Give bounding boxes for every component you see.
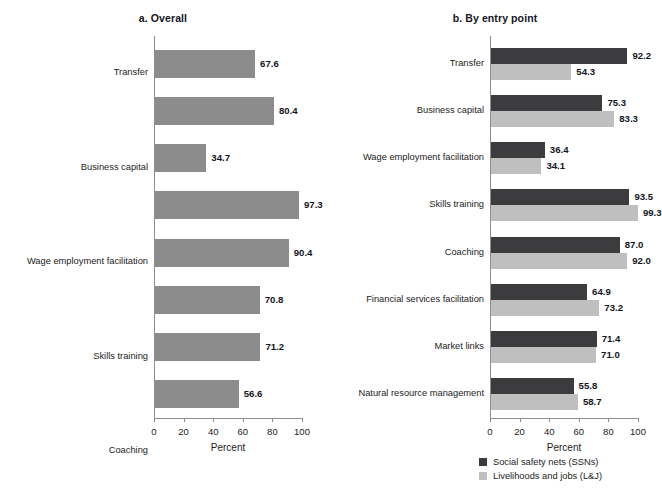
- bar: 34.1: [491, 158, 541, 174]
- x-tick-label: 100: [630, 426, 646, 437]
- x-tick-label: 0: [151, 426, 156, 437]
- category-label: Coaching: [109, 445, 148, 455]
- value-label: 87.0: [625, 239, 644, 250]
- bar: Transfer67.6: [155, 50, 255, 78]
- legend-label: Livelihoods and jobs (L&J): [493, 471, 602, 481]
- bar: 71.4: [491, 331, 597, 347]
- panel-a-title: a. Overall: [23, 12, 303, 24]
- x-axis-title-b: Percent: [490, 442, 638, 453]
- panel-by-entry-point: b. By entry point 020406080100 92.254.3T…: [331, 0, 662, 497]
- x-tick: [638, 418, 639, 422]
- x-tick-label: 40: [544, 426, 555, 437]
- value-label: 90.4: [294, 247, 313, 258]
- bar: 54.3: [491, 64, 571, 80]
- value-label: 92.0: [632, 255, 651, 266]
- bar: 73.2: [491, 300, 599, 316]
- bar: 83.3: [491, 111, 614, 127]
- category-label: Financial services facilitation: [366, 294, 491, 304]
- value-label: 36.4: [550, 144, 569, 155]
- panel-overall: a. Overall 020406080100 Transfer67.6Busi…: [0, 0, 331, 497]
- value-label: 55.8: [579, 380, 598, 391]
- bar: Market links71.2: [155, 333, 260, 361]
- x-tick-label: 20: [514, 426, 525, 437]
- x-tick: [184, 418, 185, 422]
- category-label: Transfer: [114, 67, 148, 77]
- value-label: 83.3: [619, 113, 638, 124]
- value-label: 93.5: [634, 191, 653, 202]
- category-label: Skills training: [429, 199, 491, 209]
- x-tick: [608, 418, 609, 422]
- x-tick: [302, 418, 303, 422]
- bar: 99.3: [491, 205, 638, 221]
- x-tick-label: 60: [574, 426, 585, 437]
- category-label: Skills training: [93, 351, 148, 361]
- bar: 55.8: [491, 378, 574, 394]
- x-tick-label: 80: [603, 426, 614, 437]
- value-label: 71.4: [602, 333, 621, 344]
- legend-item: Livelihoods and jobs (L&J): [479, 469, 602, 483]
- category-label: Wage employment facilitation: [363, 152, 491, 162]
- bar: 58.7: [491, 394, 578, 410]
- bar: Coaching90.4: [155, 239, 289, 267]
- category-label: Business capital: [417, 105, 491, 115]
- value-label: 70.8: [265, 294, 284, 305]
- bar: 75.3: [491, 95, 602, 111]
- y-axis-cap-a: [154, 36, 155, 40]
- x-tick-label: 20: [178, 426, 189, 437]
- legend-swatch-icon: [479, 472, 487, 480]
- bar: 71.0: [491, 347, 596, 363]
- value-label: 80.4: [279, 105, 298, 116]
- bar: Wage employment facilitation34.7: [155, 144, 206, 172]
- bar: Financial services facilitation70.8: [155, 286, 260, 314]
- x-tick: [490, 418, 491, 422]
- bar: Business capital80.4: [155, 97, 274, 125]
- figure-root: a. Overall 020406080100 Transfer67.6Busi…: [0, 0, 662, 497]
- bar: Natural resource management56.6: [155, 380, 239, 408]
- x-tick: [579, 418, 580, 422]
- x-tick: [520, 418, 521, 422]
- x-tick: [154, 418, 155, 422]
- value-label: 71.0: [601, 349, 620, 360]
- bar: Skills training97.3: [155, 191, 299, 219]
- x-tick-label: 80: [267, 426, 278, 437]
- value-label: 92.2: [632, 50, 651, 61]
- bar: 36.4: [491, 142, 545, 158]
- x-tick-label: 60: [238, 426, 249, 437]
- plot-area-b: 020406080100 92.254.3Transfer75.383.3Bus…: [490, 40, 638, 418]
- category-label: Market links: [434, 341, 491, 351]
- x-tick-label: 0: [487, 426, 492, 437]
- x-tick-label: 100: [294, 426, 310, 437]
- category-label: Coaching: [445, 247, 491, 257]
- value-label: 34.7: [211, 152, 230, 163]
- bar: 87.0: [491, 237, 620, 253]
- value-label: 71.2: [265, 341, 284, 352]
- category-label: Transfer: [450, 58, 491, 68]
- value-label: 97.3: [304, 199, 323, 210]
- category-label: Natural resource management: [358, 388, 491, 398]
- bar: 92.2: [491, 48, 627, 64]
- y-axis-cap-b: [490, 36, 491, 40]
- x-axis-title-a: Percent: [154, 442, 302, 453]
- legend-label: Social safety nets (SSNs): [493, 457, 598, 467]
- value-label: 64.9: [592, 286, 611, 297]
- value-label: 54.3: [576, 66, 595, 77]
- x-tick: [549, 418, 550, 422]
- x-axis-line-a: [154, 418, 302, 419]
- bar: 93.5: [491, 189, 629, 205]
- panel-b-title: b. By entry point: [355, 12, 635, 24]
- bar: 64.9: [491, 284, 587, 300]
- value-label: 34.1: [546, 160, 565, 171]
- x-tick: [243, 418, 244, 422]
- category-label: Business capital: [81, 162, 148, 172]
- bar: 92.0: [491, 253, 627, 269]
- x-axis-line-b: [490, 418, 638, 419]
- value-label: 99.3: [643, 207, 662, 218]
- value-label: 56.6: [244, 388, 263, 399]
- value-label: 75.3: [607, 97, 626, 108]
- legend: Social safety nets (SSNs)Livelihoods and…: [479, 455, 602, 483]
- value-label: 73.2: [604, 302, 623, 313]
- value-label: 67.6: [260, 58, 279, 69]
- category-label: Wage employment facilitation: [27, 256, 148, 266]
- x-tick-label: 40: [208, 426, 219, 437]
- x-tick: [272, 418, 273, 422]
